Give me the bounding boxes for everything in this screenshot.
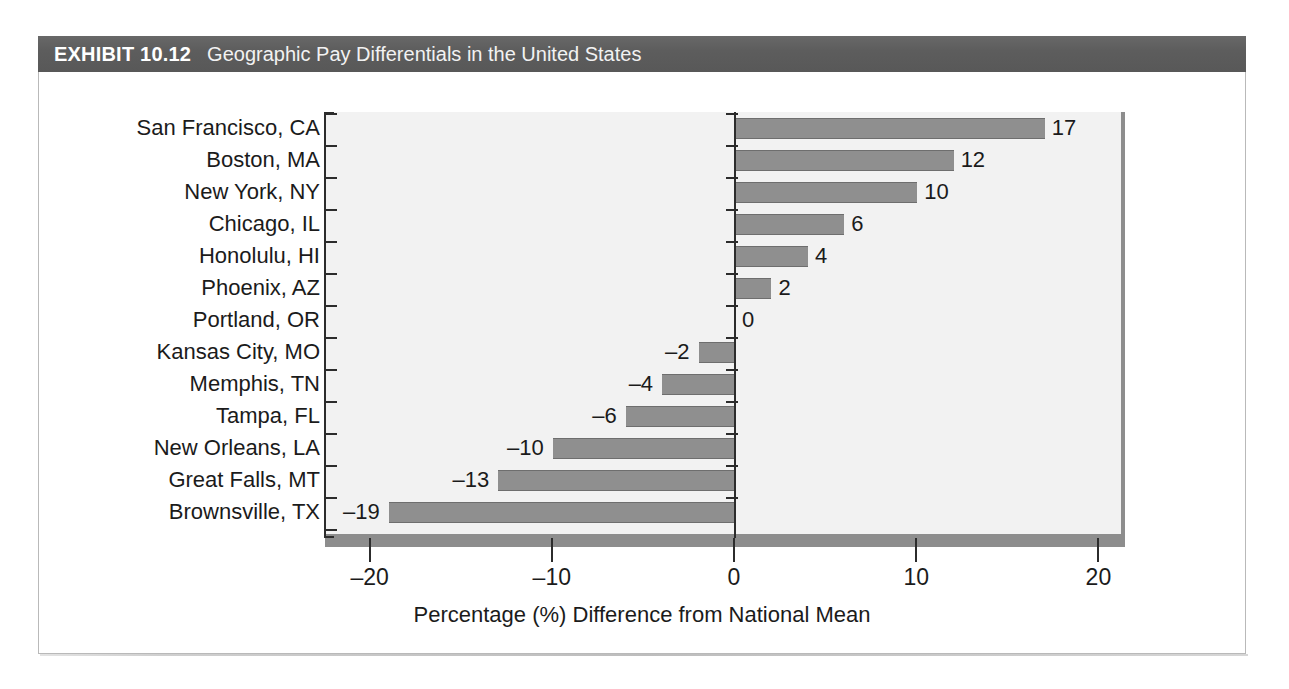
category-label: San Francisco, CA <box>98 115 320 141</box>
exhibit-number: EXHIBIT 10.12 <box>54 43 191 66</box>
y-axis-tick <box>324 305 337 307</box>
y-axis-inner-tick <box>726 113 738 115</box>
x-axis-line <box>325 538 1125 547</box>
x-axis-tick <box>915 538 917 562</box>
chart-area: San Francisco, CABoston, MANew York, NYC… <box>38 72 1246 654</box>
bar-value-label: –10 <box>38 435 544 461</box>
bar-value-label: 6 <box>851 211 863 237</box>
bar <box>626 406 735 427</box>
category-label: Boston, MA <box>98 147 320 173</box>
y-axis-inner-tick <box>726 433 738 435</box>
y-axis-inner-tick <box>726 337 738 339</box>
category-label: Portland, OR <box>98 307 320 333</box>
bar <box>498 470 735 491</box>
exhibit-header: EXHIBIT 10.12 Geographic Pay Differentia… <box>38 36 1246 72</box>
category-label: Chicago, IL <box>98 211 320 237</box>
bar <box>735 246 808 267</box>
x-axis-title: Percentage (%) Difference from National … <box>38 602 1246 628</box>
x-axis-tick <box>551 538 553 562</box>
bar-value-label: 4 <box>815 243 827 269</box>
bar <box>662 374 735 395</box>
y-axis-inner-tick <box>726 369 738 371</box>
y-axis-inner-tick <box>726 305 738 307</box>
x-axis-tick-label: –10 <box>533 564 571 591</box>
exhibit-frame-shadow <box>40 654 1248 656</box>
y-axis-tick <box>324 529 337 531</box>
x-axis-tick-label: 20 <box>1086 564 1112 591</box>
y-axis-inner-tick <box>726 209 738 211</box>
bar-value-label: –19 <box>38 499 380 525</box>
bar-value-label: 0 <box>742 307 754 333</box>
y-axis-inner-tick <box>726 241 738 243</box>
category-label: Honolulu, HI <box>98 243 320 269</box>
bar-value-label: 2 <box>778 275 790 301</box>
y-axis-tick <box>324 145 337 147</box>
bar-value-label: –2 <box>38 339 690 365</box>
bar-value-label: –4 <box>38 371 653 397</box>
exhibit-root: EXHIBIT 10.12 Geographic Pay Differentia… <box>0 0 1289 689</box>
y-axis-tick <box>324 241 337 243</box>
y-axis-tick <box>324 209 337 211</box>
category-label: Phoenix, AZ <box>98 275 320 301</box>
x-axis-tick <box>1097 538 1099 562</box>
y-axis-inner-tick <box>726 145 738 147</box>
bar <box>735 214 844 235</box>
bar <box>735 118 1045 139</box>
bar-value-label: –13 <box>38 467 489 493</box>
y-axis-inner-tick <box>726 177 738 179</box>
category-label: New York, NY <box>98 179 320 205</box>
bar <box>389 502 735 523</box>
x-axis-tick-label: –20 <box>350 564 388 591</box>
x-axis-tick-label: 0 <box>728 564 741 591</box>
x-axis-tick <box>369 538 371 562</box>
y-axis-inner-tick <box>726 273 738 275</box>
bar-value-label: 12 <box>961 147 985 173</box>
y-axis-inner-tick <box>726 465 738 467</box>
x-axis-tick-label: 10 <box>903 564 929 591</box>
bar <box>553 438 735 459</box>
bar-value-label: 17 <box>1052 115 1076 141</box>
y-axis-inner-tick <box>726 401 738 403</box>
zero-baseline <box>734 112 736 538</box>
y-axis-tick <box>324 273 337 275</box>
y-axis-inner-tick <box>726 497 738 499</box>
y-axis-tick <box>324 177 337 179</box>
bar-value-label: –6 <box>38 403 617 429</box>
bar <box>735 150 954 171</box>
bar <box>735 182 917 203</box>
bar <box>735 278 771 299</box>
bar-value-label: 10 <box>924 179 948 205</box>
y-axis-tick <box>324 113 337 115</box>
exhibit-title: Geographic Pay Differentials in the Unit… <box>207 43 641 66</box>
bar <box>699 342 735 363</box>
x-axis-tick <box>733 538 735 562</box>
